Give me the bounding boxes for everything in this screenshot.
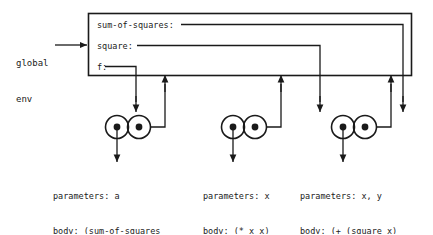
binding-pointer-f <box>105 67 136 103</box>
proc-f-parameters-line: parameters: a <box>53 191 160 203</box>
proc-sos-text-block: parameters: x, y body: (+ (square x) (sq… <box>300 168 407 234</box>
proc-f-text-block: parameters: a body: (sum-of-squares (+ a… <box>53 168 160 234</box>
proc-square-body-line-1: body: (* x x) <box>203 226 270 235</box>
procedure-object-square <box>222 116 267 163</box>
env-pointer-return-proc-square <box>266 84 281 127</box>
env-pointer-return-proc-sum-of-squares <box>376 84 391 127</box>
binding-pointer-sum-of-squares <box>181 25 403 103</box>
binding-label-f: f: <box>97 62 107 74</box>
env-pointer-return-proc-f <box>150 84 165 127</box>
proc-sos-body-line-1: body: (+ (square x) <box>300 226 407 235</box>
proc-sos-right-dot <box>362 124 369 131</box>
global-env-label: global env <box>16 33 49 129</box>
proc-square-parameters-line: parameters: x <box>203 191 270 203</box>
proc-sos-parameters-line: parameters: x, y <box>300 191 407 203</box>
proc-square-text-block: parameters: x body: (* x x) <box>203 168 270 234</box>
procedure-object-f <box>106 116 151 163</box>
proc-f-right-dot <box>136 124 143 131</box>
global-env-label-line1: global <box>16 57 49 69</box>
binding-label-square: square: <box>97 41 133 53</box>
binding-label-sum-of-squares: sum-of-squares: <box>97 20 174 32</box>
global-env-label-line2: env <box>16 93 49 105</box>
proc-f-body-line-1: body: (sum-of-squares <box>53 226 160 235</box>
diagram-canvas: global env sum-of-squares: square: f: pa… <box>0 0 433 234</box>
procedure-object-sum-of-squares <box>332 116 377 163</box>
proc-square-right-dot <box>252 124 259 131</box>
